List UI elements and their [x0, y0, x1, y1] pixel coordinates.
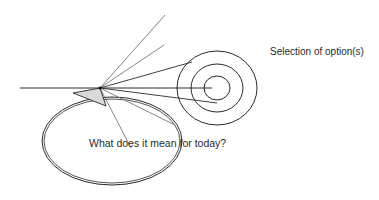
ray	[100, 15, 165, 88]
ray	[100, 88, 217, 103]
selection-label: Selection of option(s)	[270, 46, 364, 58]
question-label: What does it mean for today?	[89, 137, 226, 149]
focal-point	[98, 86, 101, 89]
arrowhead-icon	[73, 88, 106, 106]
diagram-canvas	[0, 0, 379, 200]
ray	[100, 62, 192, 88]
ray-fan	[100, 15, 217, 148]
ray	[100, 88, 175, 125]
